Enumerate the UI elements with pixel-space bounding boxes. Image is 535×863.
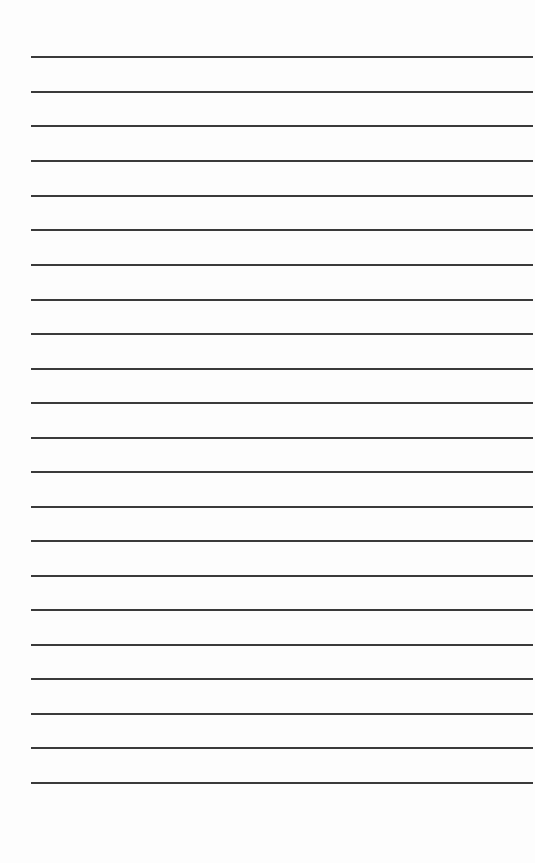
ruled-line: [31, 747, 533, 749]
lined-paper-page: [0, 0, 535, 863]
ruled-line: [31, 402, 533, 404]
ruled-line: [31, 713, 533, 715]
ruled-line: [31, 195, 533, 197]
ruled-line: [31, 540, 533, 542]
ruled-line: [31, 644, 533, 646]
ruled-line: [31, 471, 533, 473]
ruled-line: [31, 368, 533, 370]
ruled-line: [31, 264, 533, 266]
ruled-line: [31, 229, 533, 231]
ruled-line: [31, 609, 533, 611]
ruled-line: [31, 91, 533, 93]
ruled-line: [31, 575, 533, 577]
ruled-line: [31, 125, 533, 127]
ruled-line: [31, 160, 533, 162]
ruled-line: [31, 299, 533, 301]
ruled-line: [31, 333, 533, 335]
ruled-line: [31, 678, 533, 680]
ruled-line: [31, 506, 533, 508]
ruled-line: [31, 437, 533, 439]
ruled-line: [31, 56, 533, 58]
ruled-line: [31, 782, 533, 784]
